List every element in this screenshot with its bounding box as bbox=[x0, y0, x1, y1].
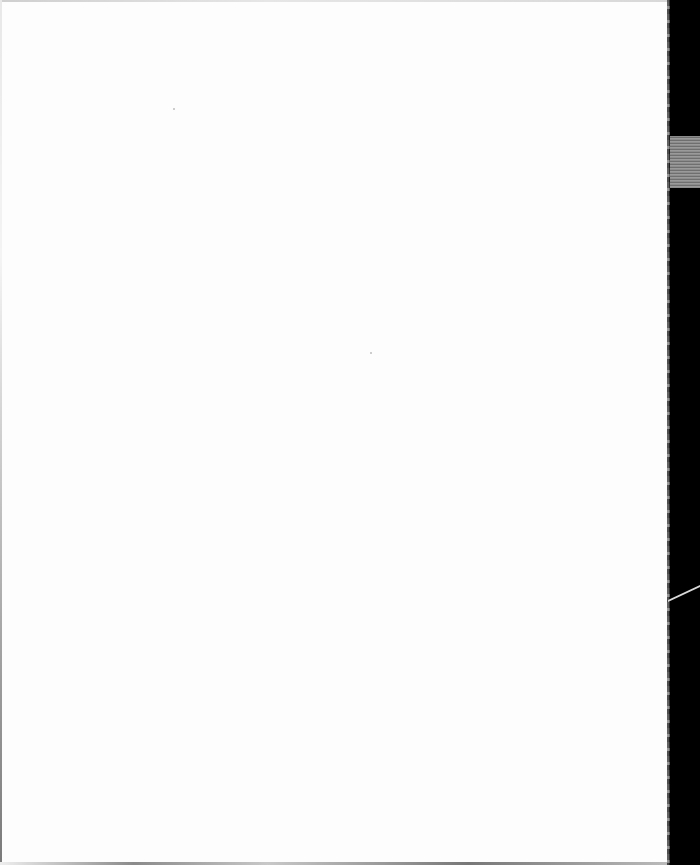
page-left-edge bbox=[0, 0, 2, 865]
page-top-edge bbox=[0, 0, 669, 2]
dust-speck bbox=[370, 352, 372, 354]
scanner-calibration-strip bbox=[670, 136, 700, 188]
dust-speck bbox=[173, 108, 175, 110]
page-right-edge bbox=[667, 0, 670, 865]
scanned-document bbox=[0, 0, 700, 865]
blank-page bbox=[0, 0, 669, 865]
page-curl-edge bbox=[668, 585, 700, 620]
